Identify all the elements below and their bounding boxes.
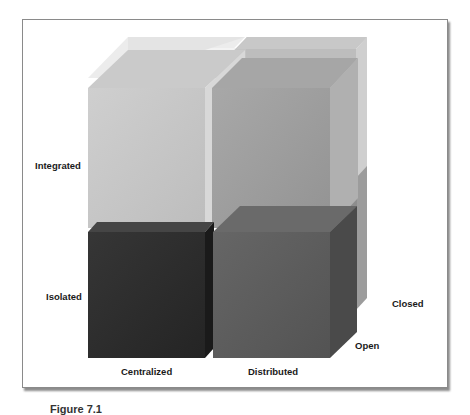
figure-caption: Figure 7.1 <box>50 403 102 415</box>
axis-label-distributed: Distributed <box>248 366 298 377</box>
axis-label-isolated: Isolated <box>46 291 82 302</box>
cube-front-bottom-left <box>88 222 214 358</box>
axis-label-closed: Closed <box>392 298 424 309</box>
cube-front-bottom-right <box>213 206 357 358</box>
cube-front-top-right <box>212 58 358 228</box>
axis-label-integrated: Integrated <box>35 160 81 171</box>
axis-label-centralized: Centralized <box>121 366 172 377</box>
axis-label-open: Open <box>355 340 379 351</box>
